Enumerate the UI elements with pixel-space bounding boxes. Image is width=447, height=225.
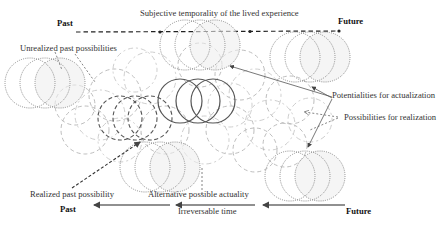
bottom-axis: Past Future Irreversable time	[60, 204, 371, 216]
alternative-actuality-circles	[120, 142, 200, 192]
top-axis-future-label: Future	[338, 16, 363, 26]
bottom-right-circles	[265, 151, 345, 201]
top-axis-past-label: Past	[57, 18, 73, 28]
top-axis-title: Subjective temporality of the lived expe…	[140, 8, 299, 18]
top-axis-marker	[248, 30, 251, 33]
top-axis-end-marker	[337, 29, 340, 32]
alternative-possible-actuality-label: Alternative possible actuality	[148, 189, 249, 199]
bottom-axis-title: Irreversable time	[178, 206, 237, 216]
realized-past-possibility-label: Realized past possibility	[30, 189, 115, 199]
unrealized-past-circles	[5, 58, 85, 108]
possibilities-for-realization-label: Possibilities for realization	[344, 112, 437, 122]
actual-present-circles	[158, 79, 235, 123]
bottom-axis-past-label: Past	[60, 204, 76, 214]
top-center-circles	[160, 20, 240, 70]
top-right-circles	[270, 32, 350, 82]
temporality-diagram: Subjective temporality of the lived expe…	[0, 0, 447, 225]
diagram-canvas: Subjective temporality of the lived expe…	[0, 0, 447, 225]
potentialities-for-actualization-label: Potentialities for actualization	[332, 90, 436, 100]
bottom-axis-future-label: Future	[346, 206, 371, 216]
top-axis-marker	[158, 30, 161, 33]
unrealized-past-possibilities-label: Unrealized past possibilities	[20, 43, 118, 53]
